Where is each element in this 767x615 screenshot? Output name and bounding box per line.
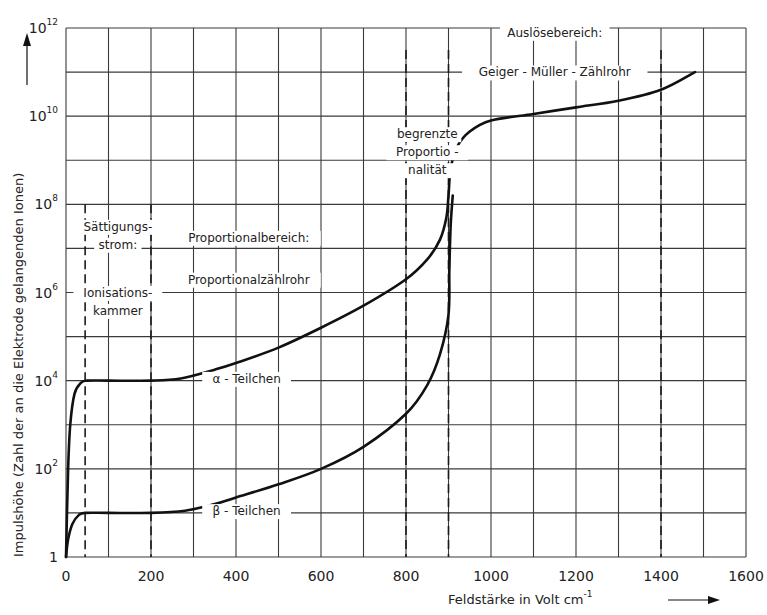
x-tick-label: 400: [223, 568, 250, 584]
annotation-text: Proportionalbereich:: [188, 231, 309, 245]
annotation-ausloesebereich: Auslösebereich:: [500, 26, 610, 41]
annotation-saettigung: Sättigungs-strom:: [77, 220, 159, 253]
curves: [66, 72, 695, 557]
annotation-text: Ionisations-: [83, 286, 152, 300]
annotation-text: α - Teilchen: [212, 372, 280, 386]
x-tick-label: 1000: [473, 568, 509, 584]
y-tick-label: 106: [34, 282, 58, 301]
annotations: Sättigungs-strom:Ionisations-kammerPropo…: [73, 26, 647, 519]
y-tick-label: 1: [49, 549, 58, 565]
x-tick-label: 1200: [558, 568, 594, 584]
annotation-geiger: Geiger - Müller - Zählrohr: [462, 65, 647, 80]
x-tick-label: 0: [62, 568, 71, 584]
x-tick-label: 800: [393, 568, 420, 584]
chart: Sättigungs-strom:Ionisations-kammerPropo…: [0, 0, 767, 615]
annotation-proportionalbereich: Proportionalbereich:: [177, 231, 321, 246]
y-tick-label: 104: [34, 370, 58, 389]
x-tick-label: 1400: [643, 568, 679, 584]
annotation-text: Geiger - Müller - Zählrohr: [479, 65, 631, 79]
x-axis-label: Feldstärke in Volt cm-1: [448, 589, 592, 607]
y-axis-label: Impulshöhe (Zahl der an die Elektrode ge…: [11, 173, 26, 557]
annotation-proportionalzaehlrohr: Proportionalzählrohr: [177, 273, 321, 288]
x-axis-title: Feldstärke in Volt cm-1: [448, 589, 720, 607]
x-axis-ticks: 02004006008001000120014001600: [62, 568, 764, 584]
annotation-alpha-label: α - Teilchen: [202, 372, 291, 387]
annotation-beta-label: β - Teilchen: [202, 504, 291, 519]
y-tick-label: 108: [34, 193, 58, 212]
annotation-text: nalität: [408, 163, 447, 177]
annotation-begrenzte: begrenzteProportio -nalität: [386, 127, 468, 178]
annotation-text: begrenzte: [397, 127, 458, 141]
annotation-text: β - Teilchen: [213, 504, 281, 518]
y-tick-label: 102: [34, 458, 58, 477]
annotation-text: strom:: [98, 238, 137, 252]
y-tick-label: 1010: [29, 105, 59, 124]
x-tick-label: 1600: [728, 568, 764, 584]
annotation-text: Auslösebereich:: [507, 26, 602, 40]
alpha-curve: [66, 72, 695, 557]
x-tick-label: 200: [138, 568, 165, 584]
y-axis-ticks: 110210410610810101012: [29, 17, 59, 565]
region-boundaries: [85, 50, 661, 557]
annotation-text: kammer: [93, 304, 143, 318]
annotation-text: Proportionalzählrohr: [188, 273, 310, 287]
annotation-ionisation: Ionisations-kammer: [73, 286, 162, 319]
annotation-text: Proportio -: [396, 145, 458, 159]
annotation-text: Sättigungs-: [83, 220, 152, 234]
x-tick-label: 600: [308, 568, 335, 584]
y-tick-label: 1012: [29, 17, 58, 36]
x-arrow-head-icon: [708, 596, 720, 604]
